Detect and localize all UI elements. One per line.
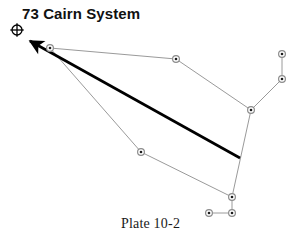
route-layer [30, 41, 240, 158]
origin-marker[interactable] [10, 23, 23, 36]
system-node[interactable] [138, 149, 145, 156]
node-core-icon [231, 196, 234, 199]
node-core-icon [140, 151, 143, 154]
plate-caption: Plate 10-2 [0, 216, 301, 232]
link-line [251, 79, 282, 110]
link-line [232, 110, 251, 197]
node-core-icon [250, 109, 253, 112]
page-title: 73 Cairn System [22, 6, 140, 23]
system-node[interactable] [279, 76, 286, 83]
system-node[interactable] [229, 194, 236, 201]
node-core-icon [231, 212, 234, 215]
system-node[interactable] [47, 45, 54, 52]
system-node[interactable] [248, 107, 255, 114]
star-system-map-page: 73 Cairn System Plate 10-2 [0, 0, 301, 239]
system-map-canvas [0, 0, 301, 239]
link-line [50, 48, 176, 59]
system-node[interactable] [173, 56, 180, 63]
node-core-icon [208, 212, 211, 215]
node-core-icon [49, 47, 52, 50]
link-line [50, 48, 141, 152]
link-line [141, 152, 232, 197]
node-core-icon [281, 78, 284, 81]
route-line[interactable] [30, 41, 240, 158]
system-node[interactable] [279, 51, 286, 58]
node-core-icon [281, 53, 284, 56]
node-core-icon [175, 58, 178, 61]
link-line [176, 59, 251, 110]
